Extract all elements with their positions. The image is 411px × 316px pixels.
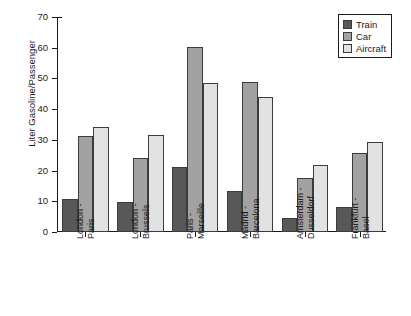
y-axis-tick-label: 60 [4,42,48,53]
y-axis-tick [52,232,57,233]
legend-swatch-icon [343,20,352,29]
legend: TrainCarAircraft [338,14,392,58]
y-axis-tick-label: 0 [4,226,48,237]
x-axis-label: Madrid -Barcelona [240,159,261,239]
y-axis-tick-label: 50 [4,72,48,83]
legend-item: Car [343,30,386,42]
legend-swatch-icon [343,44,352,53]
x-axis-label-line: Marseille [196,159,207,239]
y-axis-title: Liter Gasoline/Passenger [26,14,37,174]
chart-title [30,0,380,3]
x-axis-label-line: Paris [86,159,97,239]
legend-item: Train [343,18,386,30]
y-axis-top-cap [57,17,62,18]
x-axis-label-line: Paris - [185,159,196,239]
x-axis-label-line: Frankfurt - [350,159,361,239]
y-axis-tick-label: 10 [4,195,48,206]
x-axis-label-line: Madrid - [240,159,251,239]
x-axis-label-line: Brussels [141,159,152,239]
x-axis-label-line: London - [75,159,86,239]
x-axis-label: Amsterdam -Dusseldorf [295,159,316,239]
bar-chart: Liter Gasoline/Passenger 010203040506070… [0,0,411,316]
x-axis-label-line: Barcelona [250,159,261,239]
y-axis-tick-label: 70 [4,11,48,22]
x-axis-label-line: Dusseldorf [305,159,316,239]
x-axis-label: Paris -Marseille [185,159,206,239]
x-axis-label: Frankfurt -Basel [350,159,371,239]
x-axis-label: London -Brussels [130,159,151,239]
y-axis-tick-label: 20 [4,165,48,176]
y-axis-tick-label: 40 [4,103,48,114]
x-axis-label-line: Basel [360,159,371,239]
y-axis-tick-label: 30 [4,134,48,145]
legend-label: Train [356,19,377,30]
legend-label: Aircraft [356,43,386,54]
x-axis-label: London -Paris [75,159,96,239]
legend-label: Car [356,31,371,42]
x-axis-label-line: London - [130,159,141,239]
legend-item: Aircraft [343,42,386,54]
x-axis-label-line: Amsterdam - [295,159,306,239]
legend-swatch-icon [343,32,352,41]
